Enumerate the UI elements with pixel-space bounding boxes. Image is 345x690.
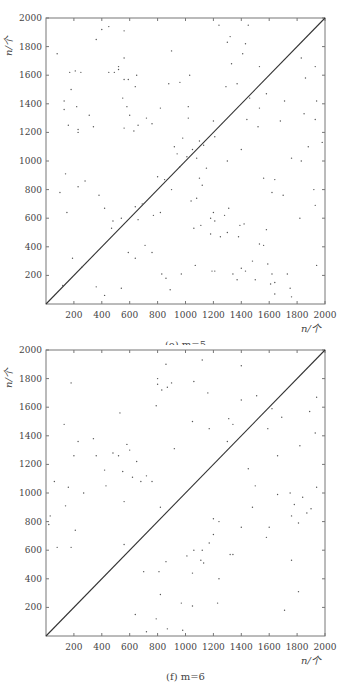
data-point	[169, 289, 170, 290]
data-point	[211, 270, 212, 271]
data-point	[93, 438, 94, 439]
data-point	[241, 399, 242, 400]
data-point	[218, 578, 219, 579]
data-point	[126, 106, 127, 107]
data-point	[121, 288, 122, 289]
data-point	[192, 149, 193, 150]
data-point	[182, 630, 183, 631]
data-point	[168, 83, 169, 84]
data-point	[315, 432, 316, 433]
data-point	[259, 66, 260, 67]
y-axis-label: n/个	[3, 35, 14, 56]
data-point	[227, 232, 228, 233]
data-point	[241, 527, 242, 528]
data-point	[179, 82, 180, 83]
data-point	[309, 411, 310, 412]
data-point	[63, 100, 64, 101]
x-tick-label: 1800	[286, 642, 309, 652]
data-point	[220, 236, 221, 237]
data-point	[89, 115, 90, 116]
data-point	[157, 378, 158, 379]
x-tick-label: 200	[65, 642, 82, 652]
data-point	[108, 72, 109, 73]
data-point	[269, 527, 270, 528]
data-point	[118, 66, 119, 67]
data-point	[182, 137, 183, 138]
chart-panel-f: 2004006008001000120014001600180020002004…	[0, 332, 345, 690]
data-point	[299, 218, 300, 219]
y-tick-label: 800	[25, 517, 42, 527]
data-point	[200, 560, 201, 561]
data-point	[160, 507, 161, 508]
data-point	[207, 392, 208, 393]
data-point	[252, 507, 253, 508]
data-point	[133, 130, 134, 131]
data-point	[174, 146, 175, 147]
data-point	[193, 381, 194, 382]
data-point	[62, 285, 63, 286]
data-point	[310, 508, 311, 509]
data-point	[267, 263, 268, 264]
data-point	[164, 179, 165, 180]
chart-panel-e: 2004006008001000120014001600180020002004…	[0, 0, 345, 345]
data-point	[188, 117, 189, 118]
data-point	[72, 258, 73, 259]
data-point	[192, 605, 193, 606]
data-point	[165, 561, 166, 562]
data-point	[232, 554, 233, 555]
data-point	[75, 70, 76, 71]
data-point	[281, 417, 282, 418]
data-point	[96, 39, 97, 40]
data-point	[259, 243, 260, 244]
data-point	[119, 412, 120, 413]
data-point	[266, 229, 267, 230]
data-point	[308, 146, 309, 147]
data-point	[77, 129, 78, 130]
data-point	[224, 215, 225, 216]
data-point	[68, 487, 69, 488]
data-point	[156, 618, 157, 619]
data-point	[228, 207, 229, 208]
data-point	[210, 218, 211, 219]
y-tick-label: 400	[25, 242, 42, 252]
data-point	[137, 125, 138, 126]
y-tick-label: 800	[25, 185, 42, 195]
y-tick-label: 200	[25, 270, 42, 280]
data-point	[135, 206, 136, 207]
x-tick-label: 1000	[174, 310, 197, 320]
data-point	[156, 405, 157, 406]
data-point	[129, 115, 130, 116]
data-point	[126, 444, 127, 445]
data-point	[196, 157, 197, 158]
data-point	[274, 293, 275, 294]
data-point	[289, 288, 290, 289]
data-point	[190, 200, 191, 201]
data-point	[277, 455, 278, 456]
data-point	[259, 107, 260, 108]
data-point	[299, 445, 300, 446]
x-tick-label: 800	[149, 310, 166, 320]
y-tick-label: 2000	[19, 345, 42, 355]
data-point	[128, 252, 129, 253]
data-point	[291, 296, 292, 297]
data-point	[291, 560, 292, 561]
data-point	[199, 177, 200, 178]
data-point	[213, 534, 214, 535]
data-point	[252, 260, 253, 261]
data-point	[239, 225, 240, 226]
data-point	[248, 468, 249, 469]
data-point	[157, 176, 158, 177]
data-point	[238, 236, 239, 237]
data-point	[80, 72, 81, 73]
data-point	[171, 189, 172, 190]
data-point	[289, 492, 290, 493]
data-point	[274, 282, 275, 283]
data-point	[128, 79, 129, 80]
data-point	[122, 97, 123, 98]
x-tick-label: 1800	[286, 310, 309, 320]
data-point	[284, 100, 285, 101]
data-point	[104, 207, 105, 208]
x-tick-label: 400	[93, 642, 110, 652]
y-tick-label: 2000	[19, 13, 42, 23]
diagonal-line	[46, 18, 325, 304]
